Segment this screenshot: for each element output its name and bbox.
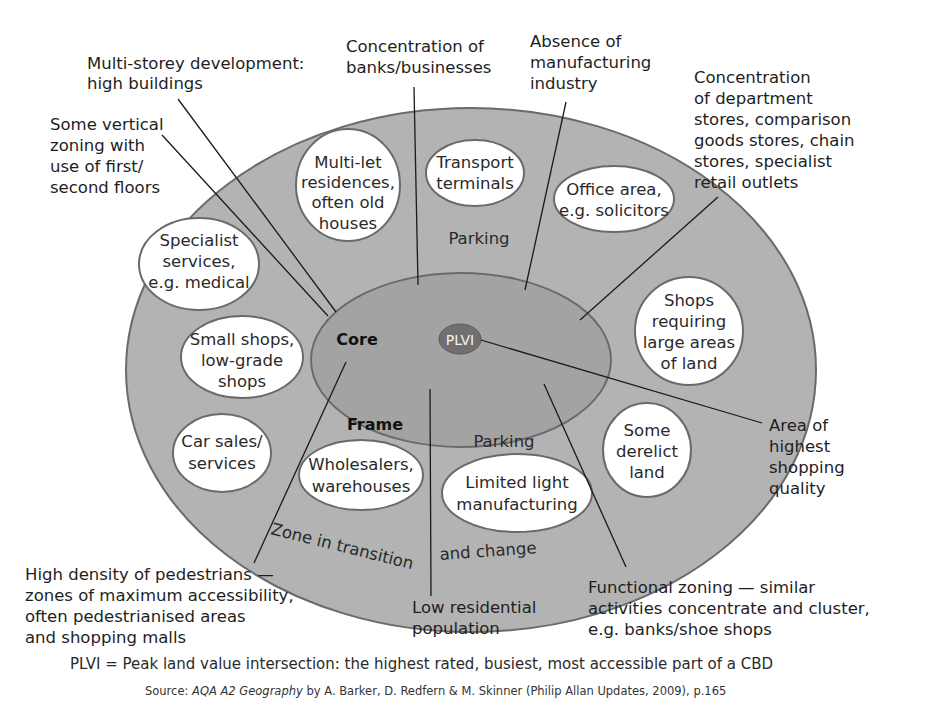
annotation-vertical-zoning: Some vertical zoning with use of first/ …: [50, 115, 164, 197]
svg-text:of department: of department: [694, 89, 813, 108]
svg-text:industry: industry: [530, 74, 598, 93]
svg-text:large areas: large areas: [643, 333, 735, 352]
svg-text:requiring: requiring: [652, 312, 726, 331]
svg-text:warehouses: warehouses: [312, 477, 411, 496]
svg-text:of land: of land: [661, 354, 718, 373]
svg-text:and shopping malls: and shopping malls: [25, 628, 186, 647]
svg-text:low-grade: low-grade: [201, 351, 283, 370]
svg-text:Functional zoning — similar: Functional zoning — similar: [588, 578, 815, 597]
svg-text:terminals: terminals: [436, 174, 514, 193]
svg-text:often pedestrianised areas: often pedestrianised areas: [25, 607, 246, 626]
svg-text:services: services: [188, 454, 256, 473]
annotation-functional-zoning: Functional zoning — similar activities c…: [588, 578, 870, 639]
svg-text:stores, comparison: stores, comparison: [694, 110, 851, 129]
bubble-wholesalers: Wholesalers, warehouses: [299, 440, 423, 510]
svg-text:services,: services,: [163, 252, 236, 271]
bubble-derelict: Some derelict land: [603, 403, 691, 497]
annotation-pedestrians: High density of pedestrians — zones of m…: [25, 565, 294, 647]
plvi-label: PLVI: [446, 332, 474, 348]
svg-text:Concentration: Concentration: [694, 68, 811, 87]
svg-text:population: population: [412, 619, 500, 638]
svg-text:Wholesalers,: Wholesalers,: [308, 455, 414, 474]
source-citation: Source: AQA A2 Geography by A. Barker, D…: [145, 684, 726, 698]
svg-text:activities concentrate and clu: activities concentrate and cluster,: [588, 599, 870, 618]
svg-text:Limited light: Limited light: [465, 473, 569, 492]
parking-label-bottom: Parking: [473, 432, 534, 451]
svg-text:Some vertical: Some vertical: [50, 115, 164, 134]
svg-text:zoning with: zoning with: [50, 136, 145, 155]
svg-text:Multi-storey development:: Multi-storey development:: [87, 54, 304, 73]
bubble-shops-large: Shops requiring large areas of land: [635, 277, 743, 385]
plvi-footnote: PLVI = Peak land value intersection: the…: [70, 655, 773, 673]
svg-text:High density of pedestrians —: High density of pedestrians —: [25, 565, 274, 584]
svg-text:e.g. medical: e.g. medical: [148, 273, 249, 292]
svg-text:houses: houses: [319, 214, 377, 233]
svg-text:quality: quality: [769, 479, 826, 498]
svg-text:Office area,: Office area,: [566, 180, 661, 199]
bubble-small-shops: Small shops, low-grade shops: [181, 316, 303, 398]
svg-text:Absence of: Absence of: [530, 32, 623, 51]
svg-text:Small shops,: Small shops,: [190, 330, 295, 349]
svg-text:Shops: Shops: [664, 291, 714, 310]
svg-text:derelict: derelict: [616, 442, 678, 461]
bubble-multi-let: Multi-let residences, often old houses: [296, 129, 400, 241]
bubble-office: Office area, e.g. solicitors: [554, 166, 674, 232]
svg-text:Low residential: Low residential: [412, 598, 536, 617]
svg-text:retail outlets: retail outlets: [694, 173, 798, 192]
svg-text:e.g. solicitors: e.g. solicitors: [559, 201, 669, 220]
svg-text:Multi-let: Multi-let: [314, 153, 382, 172]
svg-text:e.g. banks/shoe shops: e.g. banks/shoe shops: [588, 620, 772, 639]
annotation-multi-storey: Multi-storey development: high buildings: [87, 54, 304, 93]
svg-text:banks/businesses: banks/businesses: [346, 58, 491, 77]
svg-text:highest: highest: [769, 437, 831, 456]
svg-text:high buildings: high buildings: [87, 74, 203, 93]
svg-text:Some: Some: [624, 421, 671, 440]
svg-text:manufacturing: manufacturing: [456, 495, 577, 514]
bubble-car-sales: Car sales/ services: [173, 414, 271, 492]
svg-text:residences,: residences,: [301, 173, 395, 192]
svg-text:Transport: Transport: [435, 153, 514, 172]
parking-label-top: Parking: [448, 229, 509, 248]
svg-text:shops: shops: [218, 372, 266, 391]
svg-text:manufacturing: manufacturing: [530, 53, 651, 72]
frame-label: Frame: [347, 415, 403, 434]
svg-text:Area of: Area of: [769, 416, 829, 435]
svg-text:goods stores, chain: goods stores, chain: [694, 131, 854, 150]
annotation-department-stores: Concentration of department stores, comp…: [694, 68, 854, 192]
svg-text:Concentration of: Concentration of: [346, 37, 485, 56]
annotation-manufacturing: Absence of manufacturing industry: [530, 32, 651, 93]
svg-text:use of first/: use of first/: [50, 157, 144, 176]
svg-text:shopping: shopping: [769, 458, 845, 477]
svg-text:Specialist: Specialist: [159, 231, 239, 250]
bubble-specialist: Specialist services, e.g. medical: [139, 218, 259, 310]
svg-text:often old: often old: [311, 193, 384, 212]
annotation-banks: Concentration of banks/businesses: [346, 37, 491, 77]
svg-text:land: land: [629, 463, 665, 482]
core-label: Core: [336, 330, 378, 349]
bubble-transport: Transport terminals: [426, 140, 524, 206]
svg-text:Car sales/: Car sales/: [181, 432, 263, 451]
cbd-diagram: PLVI Core Frame Parking Parking Multi-le…: [0, 0, 928, 706]
svg-text:second floors: second floors: [50, 178, 160, 197]
svg-text:stores, specialist: stores, specialist: [694, 152, 833, 171]
bubble-light-manufacturing: Limited light manufacturing: [442, 454, 592, 532]
svg-text:zones of maximum accessibility: zones of maximum accessibility,: [25, 586, 294, 605]
